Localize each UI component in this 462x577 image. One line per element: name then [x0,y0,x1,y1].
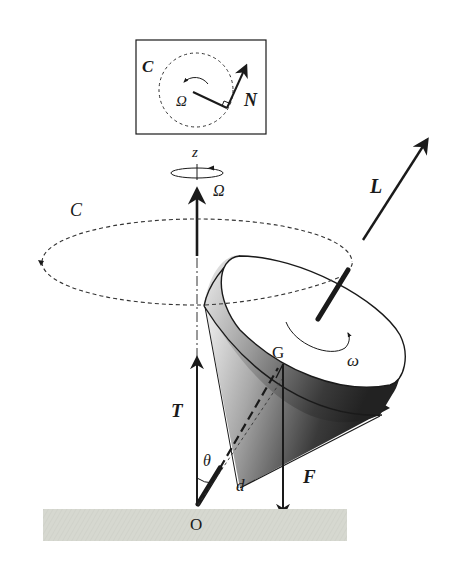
normal-force-label: T [171,400,184,421]
inset-torque-label: N [243,90,258,110]
precession-rotation-arrowhead-icon [208,166,214,171]
lever-arm-label: d [236,476,245,495]
pivot-label: O [190,515,202,534]
inset-frame [136,40,266,134]
z-axis-label: z [191,144,198,160]
gravity-force-label: F [302,466,316,487]
inset-precession-label: Ω [176,93,187,109]
center-of-mass-label: G [272,343,284,362]
spin-label: ω [347,351,359,370]
top-tip-stub [198,468,220,504]
angle-label: θ [203,452,211,469]
spinning-top-diagram: C Ω N z Ω C L [0,0,462,577]
precession-label: Ω [213,182,225,199]
precession-circle-label: C [70,200,83,220]
angular-momentum-label: L [369,175,382,197]
precession-circle-front [42,262,205,305]
precession-circle-arrowhead-icon [38,260,44,266]
spinning-top: ω [198,255,405,504]
inset-top-view: C Ω N [136,40,266,134]
inset-circle-label: C [142,57,154,76]
